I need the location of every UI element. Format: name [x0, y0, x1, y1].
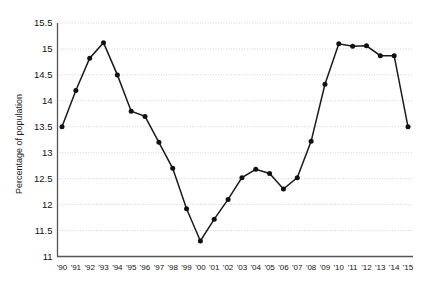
x-tick-label: '96 — [140, 263, 151, 272]
data-point — [129, 109, 134, 114]
data-point — [239, 175, 244, 180]
y-tick-label: 15.5 — [34, 17, 53, 28]
y-tick-label: 13.5 — [34, 121, 53, 132]
data-point — [350, 44, 355, 49]
data-point — [309, 139, 314, 144]
x-tick-label: '99 — [181, 263, 192, 272]
y-tick-label: 15 — [42, 43, 53, 54]
x-tick-label: '09 — [320, 263, 331, 272]
x-tick-label: '93 — [98, 263, 109, 272]
data-point — [267, 171, 272, 176]
x-tick-label: '13 — [375, 263, 386, 272]
data-point — [156, 140, 161, 145]
data-point — [60, 124, 65, 129]
data-line-series — [62, 43, 408, 241]
x-tick-label: '11 — [348, 263, 358, 272]
data-point — [295, 175, 300, 180]
x-tick-label: '90 — [57, 263, 68, 272]
gridlines-group — [60, 23, 414, 231]
data-point — [143, 114, 148, 119]
y-tick-label: 13 — [42, 147, 53, 158]
data-point — [226, 197, 231, 202]
y-tick-label: 14.5 — [34, 69, 53, 80]
y-tick-label: 12 — [42, 199, 53, 210]
data-point — [336, 41, 341, 46]
x-tick-label: '91 — [71, 263, 82, 272]
x-tick-label: '06 — [278, 263, 289, 272]
x-tick-label: '15 — [403, 263, 414, 272]
y-tick-label: 14 — [42, 95, 53, 106]
x-tick-label: '97 — [154, 263, 165, 272]
x-tick-label: '02 — [223, 263, 234, 272]
y-tick-labels-group: 1111.51212.51313.51414.51515.5 — [34, 17, 53, 262]
x-tick-label: '05 — [264, 263, 275, 272]
x-tick-label: '01 — [209, 263, 220, 272]
data-point — [392, 53, 397, 58]
data-point — [406, 124, 411, 129]
data-point — [322, 82, 327, 87]
data-point — [184, 206, 189, 211]
data-points-group — [60, 40, 411, 243]
y-tick-label: 11.5 — [35, 225, 53, 236]
data-point — [170, 166, 175, 171]
x-tick-label: '00 — [195, 263, 206, 272]
x-tick-label: '12 — [361, 263, 372, 272]
y-tick-label: 11 — [43, 251, 53, 262]
data-point — [212, 217, 217, 222]
x-tick-label: '10 — [334, 263, 345, 272]
data-point — [87, 56, 92, 61]
x-tick-label: '92 — [84, 263, 95, 272]
x-tick-label: '94 — [112, 263, 123, 272]
data-point — [281, 187, 286, 192]
x-tick-label: '04 — [251, 263, 262, 272]
data-point — [364, 43, 369, 48]
data-point — [73, 88, 78, 93]
data-point — [115, 72, 120, 77]
x-tick-label: '08 — [306, 263, 317, 272]
line-chart: 1111.51212.51313.51414.51515.5 '90'91'92… — [0, 0, 432, 288]
data-point — [378, 53, 383, 58]
y-tick-label: 12.5 — [34, 173, 53, 184]
data-point — [253, 167, 258, 172]
x-tick-labels-group: '90'91'92'93'94'95'96'97'98'99'00'01'02'… — [57, 263, 414, 272]
x-tick-label: '98 — [168, 263, 179, 272]
chart-container: 1111.51212.51313.51414.51515.5 '90'91'92… — [0, 0, 432, 288]
data-point — [101, 40, 106, 45]
data-point — [198, 238, 203, 243]
x-tick-label: '14 — [389, 263, 400, 272]
x-tick-label: '95 — [126, 263, 137, 272]
x-tick-label: '07 — [292, 263, 303, 272]
y-axis-title: Percentage of population — [14, 94, 24, 194]
x-tick-label: '03 — [237, 263, 248, 272]
